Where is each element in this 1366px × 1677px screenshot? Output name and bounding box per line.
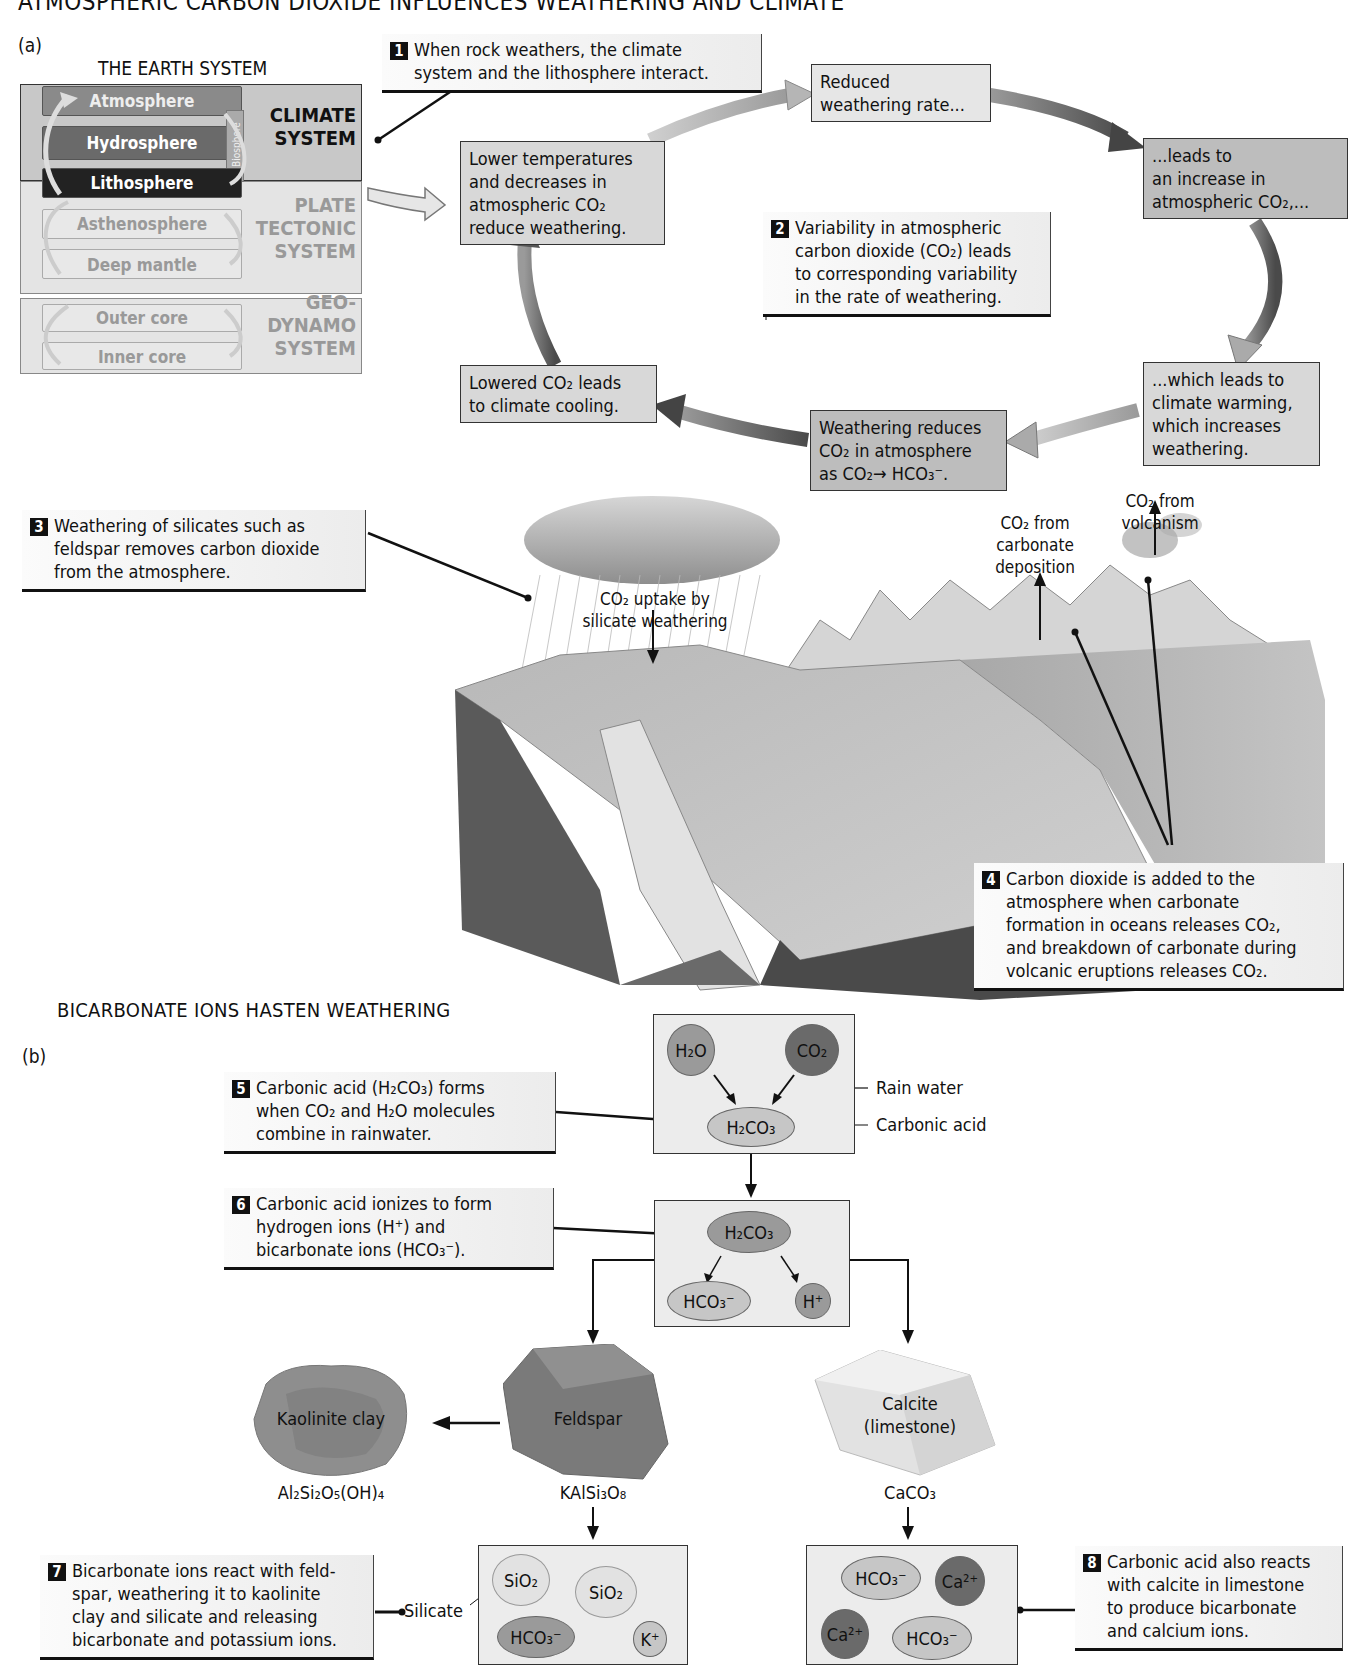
feldspar-formula: KAlSi₃O₈ xyxy=(503,1482,683,1503)
callout-4: 4Carbon dioxide is added to the atmosphe… xyxy=(974,863,1344,991)
carbonate-deposition-label: CO₂ from carbonate deposition xyxy=(980,512,1090,578)
callout-1: 1When rock weathers, the climate system … xyxy=(382,34,762,93)
silica-molecule-2: SiO₂ xyxy=(575,1566,637,1618)
callout-7: 7Bicarbonate ions react with feld- spar,… xyxy=(40,1555,374,1660)
box-lowered-co2: Lowered CO₂ leads to climate cooling. xyxy=(460,365,657,423)
h2co3-molecule: H₂CO₃ xyxy=(707,1107,795,1147)
uptake-label: CO₂ uptake by silicate weathering xyxy=(580,588,730,632)
callout-2: 2Variability in atmospheric carbon dioxi… xyxy=(763,212,1051,317)
calcium-ion-1: Ca²⁺ xyxy=(935,1556,985,1606)
calcite-products-box: HCO₃⁻ Ca²⁺ Ca²⁺ HCO₃⁻ xyxy=(806,1545,1018,1665)
hydrogen-ion: H⁺ xyxy=(795,1283,831,1319)
callout-5: 5Carbonic acid (H₂CO₃) forms when CO₂ an… xyxy=(224,1072,556,1154)
feldspar-label: Feldspar xyxy=(503,1408,673,1429)
callout-1-number: 1 xyxy=(390,42,408,60)
carbonic-acid-label: Carbonic acid xyxy=(876,1114,987,1135)
silica-molecule-1: SiO₂ xyxy=(492,1554,550,1606)
rainwater-box: H₂O CO₂ H₂CO₃ xyxy=(653,1014,855,1154)
feldspar-products-box: SiO₂ SiO₂ HCO₃⁻ K⁺ xyxy=(478,1545,688,1665)
box-lower-temperatures: Lower temperatures and decreases in atmo… xyxy=(460,141,665,245)
kaolinite-formula: Al₂Si₂O₅(OH)₄ xyxy=(246,1482,416,1503)
rain-water-label: Rain water xyxy=(876,1077,963,1098)
callout-8: 8Carbonic acid also reacts with calcite … xyxy=(1075,1546,1343,1651)
calcium-ion-2: Ca²⁺ xyxy=(821,1609,869,1659)
calcite-label: Calcite (limestone) xyxy=(830,1392,990,1438)
bicarbonate-ion-3: HCO₃⁻ xyxy=(841,1556,921,1600)
box-increase-co2: ...leads to an increase in atmospheric C… xyxy=(1143,138,1348,219)
box-climate-warming: ...which leads to climate warming, which… xyxy=(1143,362,1320,466)
callout-6: 6Carbonic acid ionizes to form hydrogen … xyxy=(224,1188,554,1270)
box-reduced-weathering-rate: Reduced weathering rate... xyxy=(811,64,991,122)
bicarbonate-ion-4: HCO₃⁻ xyxy=(892,1616,972,1660)
calcite-formula: CaCO₃ xyxy=(830,1482,990,1503)
callout-5-number: 5 xyxy=(232,1080,250,1098)
silicate-label: Silicate xyxy=(404,1600,463,1621)
callout-2-number: 2 xyxy=(771,220,789,238)
kaolinite-clay-label: Kaolinite clay xyxy=(246,1408,416,1429)
volcanism-label: CO₂ from volcanism xyxy=(1110,490,1210,534)
potassium-ion: K⁺ xyxy=(633,1621,667,1657)
callout-4-number: 4 xyxy=(982,871,1000,889)
callout-6-number: 6 xyxy=(232,1196,250,1214)
callout-8-number: 8 xyxy=(1083,1554,1101,1572)
bicarbonate-ion: HCO₃⁻ xyxy=(667,1281,751,1321)
callout-7-number: 7 xyxy=(48,1563,66,1581)
bicarbonate-ion-2: HCO₃⁻ xyxy=(497,1616,575,1658)
ionization-box: H₂CO₃ HCO₃⁻ H⁺ xyxy=(654,1200,850,1327)
rain-cloud xyxy=(524,496,780,584)
